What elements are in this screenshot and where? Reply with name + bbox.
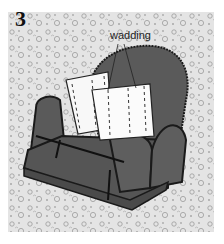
wadding-callout-label: wadding	[110, 29, 151, 41]
step-number: 3	[15, 8, 26, 30]
wadding-piece-right	[92, 84, 154, 140]
